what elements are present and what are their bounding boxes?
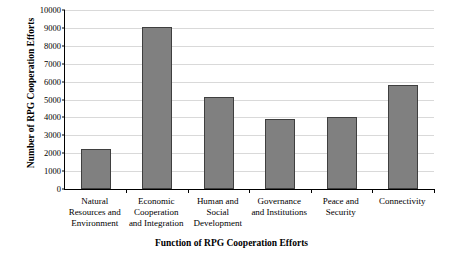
x-tick-mark (372, 189, 373, 193)
y-tick-mark (62, 189, 65, 190)
y-tick-label: 5000 (44, 95, 61, 105)
y-tick-mark (62, 135, 65, 136)
x-axis-title: Function of RPG Cooperation Efforts (0, 238, 463, 248)
x-tick-mark (311, 189, 312, 193)
y-tick-mark (62, 81, 65, 82)
gridline (65, 64, 434, 65)
x-tick-mark (188, 189, 189, 193)
y-tick-mark (62, 27, 65, 28)
y-tick-label: 3000 (44, 130, 61, 140)
y-tick-mark (62, 45, 65, 46)
y-tick-mark (62, 99, 65, 100)
y-tick-label: 2000 (44, 148, 61, 158)
y-tick-mark (62, 171, 65, 172)
x-tick-label: Human and Social Development (187, 196, 249, 229)
y-tick-label: 6000 (44, 77, 61, 87)
y-tick-label: 9000 (44, 23, 61, 33)
y-tick-label: 4000 (44, 112, 61, 122)
bar-chart: Number of RPG Cooperation Efforts 010002… (0, 0, 463, 257)
y-tick-label: 7000 (44, 59, 61, 69)
bar (388, 85, 418, 189)
y-tick-label: 10000 (40, 5, 61, 15)
y-tick-label: 8000 (44, 41, 61, 51)
x-tick-label: Peace and Security (310, 196, 372, 218)
gridline (65, 153, 434, 154)
gridline (65, 10, 434, 11)
y-tick-label: 1000 (44, 166, 61, 176)
x-tick-label: Governance and Institutions (249, 196, 311, 218)
y-tick-label: 0 (57, 184, 61, 194)
gridline (65, 135, 434, 136)
x-tick-mark (126, 189, 127, 193)
x-tick-mark (434, 189, 435, 193)
x-tick-label: Connectivity (372, 196, 434, 207)
y-tick-mark (62, 10, 65, 11)
bar (204, 97, 234, 189)
bar (142, 27, 172, 189)
y-tick-mark (62, 63, 65, 64)
gridline (65, 28, 434, 29)
gridline (65, 100, 434, 101)
y-tick-mark (62, 153, 65, 154)
x-tick-label: Natural Resources and Environment (64, 196, 126, 229)
gridline (65, 82, 434, 83)
bar (81, 149, 111, 189)
gridline (65, 171, 434, 172)
gridline (65, 117, 434, 118)
bar (327, 117, 357, 189)
y-tick-mark (62, 117, 65, 118)
x-tick-mark (249, 189, 250, 193)
bar (265, 119, 295, 189)
plot-area: 0100020003000400050006000700080009000100… (64, 10, 434, 190)
x-tick-label: Economic Cooperation and Integration (126, 196, 188, 229)
gridline (65, 46, 434, 47)
y-axis-title: Number of RPG Cooperation Efforts (26, 0, 36, 193)
